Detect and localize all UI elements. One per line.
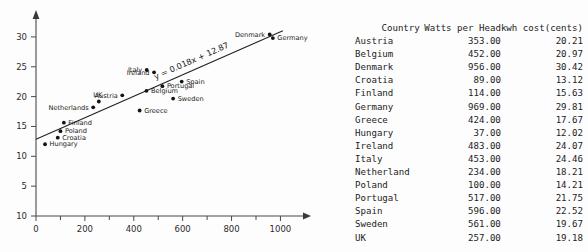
data-point-croatia (56, 136, 60, 140)
table-cell-col-country: Hungary (355, 127, 420, 140)
table-cell-col-country: Finland (355, 87, 420, 100)
x-axis-ticks: 02004006008001000 (33, 216, 291, 234)
table-row: Hungary37.0012.02 (355, 127, 583, 140)
data-point-germany (271, 36, 275, 40)
data-point-label-poland: Poland (65, 127, 87, 135)
table-cell-col-country: Netherland (355, 166, 420, 179)
trend-equation-annotation: y = 0.018x + 12.87 (152, 40, 230, 82)
data-point-portugal (160, 84, 164, 88)
table-cell-col-watts: 100.00 (420, 179, 501, 192)
table-cell-col-watts: 517.00 (420, 192, 501, 205)
y-tick-label: 5 (22, 181, 27, 191)
table-cell-col-cost: 30.42 (501, 61, 583, 74)
table-cell-col-cost: 19.67 (501, 218, 583, 231)
table-header-row: CountryWatts per Headkwh cost(cents) (355, 22, 583, 35)
table-row: Finland114.0015.63 (355, 87, 583, 100)
table-cell-col-cost: 14.21 (501, 179, 583, 192)
data-point-sweden (171, 97, 175, 101)
table-row: Austria353.0020.21 (355, 35, 583, 48)
table-row: UK257.0019.18 (355, 232, 583, 245)
table-cell-col-cost: 18.21 (501, 166, 583, 179)
table-header-col-country: Country (355, 22, 420, 35)
data-point-greece (138, 109, 142, 113)
table-cell-col-country: Poland (355, 179, 420, 192)
data-point-spain (180, 80, 184, 84)
data-point-label-netherlands: Netherlands (48, 104, 89, 112)
trend-equation-label: y = 0.018x + 12.87 (152, 40, 230, 82)
table-cell-col-cost: 13.12 (501, 74, 583, 87)
x-tick-label: 1000 (270, 224, 292, 234)
table-cell-col-cost: 20.97 (501, 48, 583, 61)
table-cell-col-country: Belgium (355, 48, 420, 61)
table-cell-col-country: Ireland (355, 140, 420, 153)
data-point-label-germany: Germany (277, 34, 307, 42)
table-cell-col-watts: 257.00 (420, 232, 501, 245)
table-cell-col-watts: 114.00 (420, 87, 501, 100)
x-axis-arrowhead (303, 212, 311, 219)
y-tick-label: 25 (16, 62, 27, 72)
table-header-col-watts: Watts per Head (420, 22, 501, 35)
y-tick-label: 20 (16, 92, 27, 102)
table-cell-col-cost: 20.21 (501, 35, 583, 48)
y-axis-ticks: 1051015202530 (16, 32, 36, 221)
table-cell-col-country: Italy (355, 153, 420, 166)
table-cell-col-watts: 424.00 (420, 114, 501, 127)
table-row: Spain596.0022.52 (355, 205, 583, 218)
data-point-belgium (145, 89, 149, 93)
data-point-label-italy: Italy (128, 66, 142, 74)
table-row: Poland100.0014.21 (355, 179, 583, 192)
x-tick-label: 400 (126, 224, 142, 234)
table-cell-col-cost: 29.81 (501, 101, 583, 114)
data-point-label-greece: Greece (144, 107, 167, 115)
table-cell-col-watts: 561.00 (420, 218, 501, 231)
data-point-denmark (268, 33, 272, 37)
table-cell-col-cost: 19.18 (501, 232, 583, 245)
table-cell-col-cost: 24.46 (501, 153, 583, 166)
table-head: CountryWatts per Headkwh cost(cents) (355, 22, 583, 35)
chart-axes (33, 10, 311, 220)
table-row: Belgium452.0020.97 (355, 48, 583, 61)
table-cell-col-watts: 37.00 (420, 127, 501, 140)
data-point-label-denmark: Denmark (235, 31, 265, 39)
y-tick-label: 30 (16, 32, 27, 42)
table-row: Greece424.0017.67 (355, 114, 583, 127)
table-cell-col-watts: 956.00 (420, 61, 501, 74)
table-header-col-cost: kwh cost(cents) (501, 22, 583, 35)
table-row: Denmark956.0030.42 (355, 61, 583, 74)
y-tick-label: 15 (16, 121, 27, 131)
data-point-label-uk: UK (93, 91, 103, 99)
table-cell-col-country: Austria (355, 35, 420, 48)
table-row: Croatia89.0013.12 (355, 74, 583, 87)
table-row: Portugal517.0021.75 (355, 192, 583, 205)
table-cell-col-cost: 21.75 (501, 192, 583, 205)
scatter-chart-panel: 1051015202530 02004006008001000 AustriaB… (0, 0, 330, 252)
table-cell-col-watts: 596.00 (420, 205, 501, 218)
table-cell-col-cost: 24.07 (501, 140, 583, 153)
table-cell-col-country: Sweden (355, 218, 420, 231)
data-point-label-hungary: Hungary (50, 140, 78, 148)
table-cell-col-cost: 12.02 (501, 127, 583, 140)
table-cell-col-watts: 89.00 (420, 74, 501, 87)
data-points-group: AustriaBelgiumDenmarkCroatiaFinlandGerma… (43, 31, 308, 149)
table-cell-col-watts: 234.00 (420, 166, 501, 179)
screenshot-root: 1051015202530 02004006008001000 AustriaB… (0, 0, 588, 252)
table-cell-col-cost: 17.67 (501, 114, 583, 127)
x-tick-label: 0 (33, 224, 38, 234)
data-table-panel: CountryWatts per Headkwh cost(cents) Aus… (355, 0, 588, 252)
table-cell-col-watts: 969.00 (420, 101, 501, 114)
y-tick-label: 10 (16, 151, 27, 161)
table-cell-col-watts: 452.00 (420, 48, 501, 61)
data-point-hungary (43, 142, 47, 146)
table-cell-col-cost: 15.63 (501, 87, 583, 100)
table-cell-col-country: Spain (355, 205, 420, 218)
table-row: Netherland234.0018.21 (355, 166, 583, 179)
y-axis-arrowhead (33, 10, 40, 19)
x-tick-label: 600 (175, 224, 191, 234)
x-tick-label: 200 (77, 224, 93, 234)
country-energy-table: CountryWatts per Headkwh cost(cents) Aus… (355, 22, 583, 245)
table-row: Sweden561.0019.67 (355, 218, 583, 231)
data-point-label-sweden: Sweden (178, 95, 204, 103)
y-tick-label: 10 (16, 211, 27, 221)
table-row: Germany969.0029.81 (355, 101, 583, 114)
table-cell-col-cost: 22.52 (501, 205, 583, 218)
